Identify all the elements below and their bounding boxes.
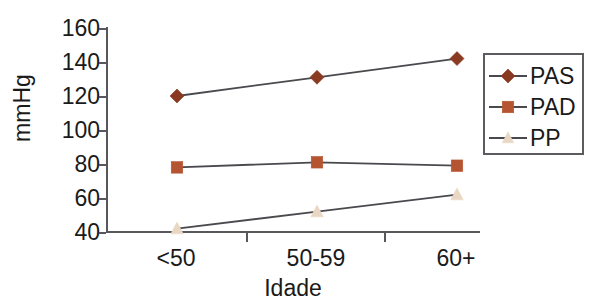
- legend-entry-pad[interactable]: PAD: [485, 92, 582, 122]
- legend-swatch-diamond-icon: [487, 66, 529, 86]
- series-pas: [170, 52, 464, 103]
- chart-container: mmHg 160140120100806040 <5050-5960+ Idad…: [0, 0, 602, 304]
- data-point-marker: [451, 188, 463, 200]
- legend-label: PAD: [530, 96, 576, 119]
- series-pp: [171, 188, 463, 234]
- data-point-marker: [311, 157, 322, 168]
- series-pad: [171, 157, 462, 174]
- data-point-marker: [451, 160, 462, 171]
- data-point-marker: [450, 52, 464, 66]
- chart-legend: PASPADPP: [483, 53, 584, 155]
- legend-label: PAS: [530, 65, 574, 88]
- legend-label: PP: [530, 127, 561, 150]
- legend-entry-pas[interactable]: PAS: [485, 61, 582, 91]
- data-point-marker: [310, 70, 324, 84]
- data-point-marker: [171, 162, 182, 173]
- legend-entry-pp[interactable]: PP: [485, 123, 582, 153]
- data-point-marker: [170, 89, 184, 103]
- legend-swatch-square-icon: [487, 97, 529, 117]
- legend-swatch-triangle-icon: [487, 128, 529, 148]
